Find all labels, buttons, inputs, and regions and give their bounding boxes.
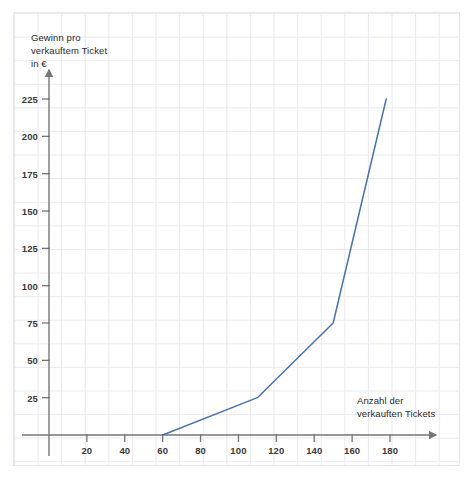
y-tick-label: 200 xyxy=(22,131,38,142)
x-tick-label: 180 xyxy=(382,445,398,456)
chart-canvas: Gewinn pro verkauftem Ticket in € Anzahl… xyxy=(0,0,473,479)
y-tick-label: 225 xyxy=(22,94,38,105)
x-tick-label: 20 xyxy=(81,445,92,456)
x-tick-label: 140 xyxy=(306,445,322,456)
y-tick-label: 75 xyxy=(27,318,38,329)
y-tick-label: 150 xyxy=(22,206,38,217)
x-tick-label: 100 xyxy=(230,445,246,456)
y-tick-label: 50 xyxy=(27,355,38,366)
x-axis-title: Anzahl der verkauften Tickets xyxy=(357,394,435,420)
x-tick-label: 120 xyxy=(268,445,284,456)
data-series-line xyxy=(163,99,387,435)
y-axis-title: Gewinn pro verkauftem Ticket in € xyxy=(31,31,107,71)
x-tick-label: 160 xyxy=(344,445,360,456)
tick-marks xyxy=(42,99,390,442)
x-tick-label: 80 xyxy=(195,445,206,456)
y-tick-label: 100 xyxy=(22,280,38,291)
x-tick-label: 60 xyxy=(157,445,168,456)
y-tick-label: 175 xyxy=(22,168,38,179)
y-tick-label: 125 xyxy=(22,243,38,254)
y-tick-label: 25 xyxy=(27,392,38,403)
x-tick-label: 40 xyxy=(119,445,130,456)
